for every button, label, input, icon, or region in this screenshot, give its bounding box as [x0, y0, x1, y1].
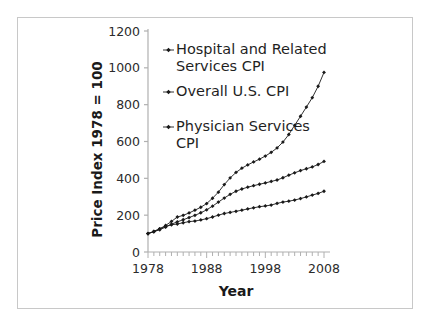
series-marker [187, 216, 191, 220]
series-marker [246, 185, 250, 189]
series-marker [275, 178, 279, 182]
line-chart: 0200400600800100012001978198819982008Yea… [0, 0, 432, 324]
series-marker [269, 203, 273, 207]
series-marker [240, 187, 244, 191]
series-marker [146, 232, 150, 236]
x-tick-label: 1978 [132, 261, 164, 276]
figure-container: 0200400600800100012001978198819982008Yea… [0, 0, 432, 324]
x-tick-label: 2008 [308, 261, 340, 276]
series-marker [187, 211, 191, 215]
series-marker [181, 213, 185, 217]
series-marker [293, 171, 297, 175]
chart-area: 0200400600800100012001978198819982008Yea… [0, 0, 432, 324]
series-marker [299, 169, 303, 173]
x-axis-title: Year [218, 283, 254, 299]
y-tick-label: 1200 [108, 24, 140, 39]
series-marker [316, 84, 320, 88]
series-marker [316, 192, 320, 196]
series-marker [222, 212, 226, 216]
y-tick-label: 800 [116, 97, 140, 112]
series-marker [234, 209, 238, 213]
series-marker [281, 176, 285, 180]
series-marker [252, 184, 256, 188]
series-marker [304, 195, 308, 199]
series-marker [193, 213, 197, 217]
series-marker [263, 204, 267, 208]
series-marker [304, 167, 308, 171]
series-marker [199, 218, 203, 222]
series-marker [310, 193, 314, 197]
series-marker [252, 160, 256, 164]
series-marker [287, 199, 291, 203]
series-marker [240, 208, 244, 212]
series-marker [246, 207, 250, 211]
y-tick-label: 600 [116, 134, 140, 149]
series-marker [293, 198, 297, 202]
series-marker [193, 219, 197, 223]
series-marker [299, 197, 303, 201]
series-marker [287, 173, 291, 177]
series-marker [199, 211, 203, 215]
y-tick-label: 1000 [108, 60, 140, 75]
series-marker [175, 220, 179, 224]
y-tick-label: 0 [132, 245, 140, 260]
series-marker [310, 165, 314, 169]
series-marker [246, 163, 250, 167]
y-axis-title: Price Index 1978 = 100 [89, 61, 105, 237]
x-tick-label: 1988 [191, 261, 223, 276]
series-marker [228, 210, 232, 214]
series-marker [252, 206, 256, 210]
series-marker [322, 71, 326, 75]
series-marker [216, 213, 220, 217]
series-marker [205, 217, 209, 221]
series-marker [181, 218, 185, 222]
series-marker [187, 220, 191, 224]
series-marker [258, 182, 262, 186]
legend-marker-diamond [166, 48, 171, 53]
x-tick-label: 1998 [249, 261, 281, 276]
legend-entry-label: Hospital and Related [176, 41, 327, 57]
legend-entry-label: Overall U.S. CPI [176, 83, 289, 99]
legend-entry-label: Services CPI [176, 58, 265, 74]
series-marker [263, 181, 267, 185]
series-marker [281, 200, 285, 204]
y-tick-label: 400 [116, 171, 140, 186]
series-marker [211, 215, 215, 219]
legend-marker-diamond [166, 90, 171, 95]
y-tick-label: 200 [116, 208, 140, 223]
series-marker [322, 159, 326, 163]
series-marker [269, 180, 273, 184]
series-marker [258, 157, 262, 161]
series-marker [234, 189, 238, 193]
legend-entry-label: CPI [176, 135, 199, 151]
series-marker [258, 205, 262, 209]
series-marker [322, 189, 326, 193]
legend-entry-label: Physician Services [176, 118, 310, 134]
series-marker [316, 163, 320, 167]
series-marker [193, 208, 197, 212]
legend-marker-diamond [166, 125, 171, 130]
series-marker [275, 201, 279, 205]
